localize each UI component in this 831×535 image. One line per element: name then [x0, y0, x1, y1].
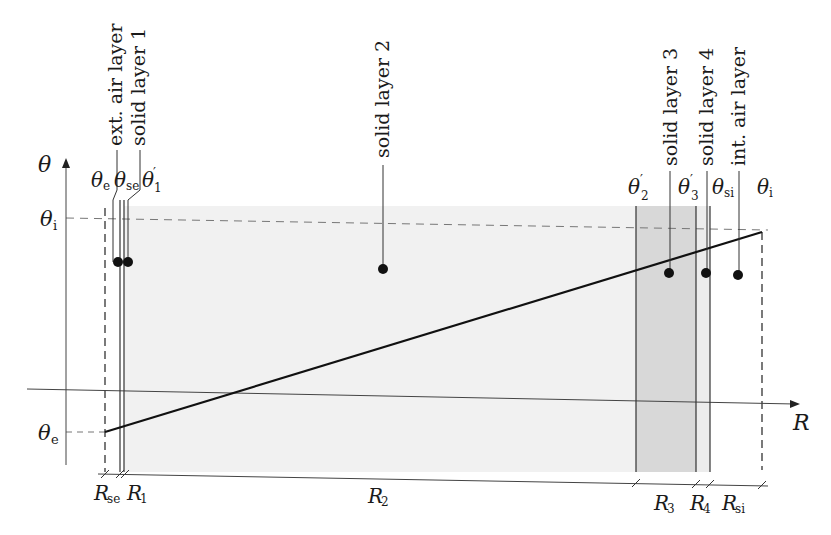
temp-label-theta-2-prime: θ ′ 2: [628, 172, 649, 203]
svg-text:θ: θ: [40, 207, 53, 231]
svg-text:si: si: [735, 502, 745, 516]
svg-text:θ: θ: [91, 168, 103, 192]
svg-text:i: i: [53, 218, 57, 233]
resistance-label-r1: R 1: [126, 481, 148, 506]
svg-text:2: 2: [381, 495, 389, 509]
svg-text:i: i: [769, 186, 773, 200]
label-solid-layer-4: solid layer 4: [695, 48, 717, 166]
svg-text:se: se: [107, 492, 120, 506]
temp-label-theta-1-prime: θ ′ 1: [142, 165, 162, 195]
svg-text:θ: θ: [712, 175, 724, 199]
tick-theta-i: θ i: [40, 207, 57, 233]
dimension-ticks: [101, 470, 766, 489]
svg-text:θ: θ: [757, 175, 769, 199]
dot-solid-4: [701, 268, 711, 278]
resistance-label-r2: R 2: [367, 484, 389, 509]
svg-text:1: 1: [140, 492, 148, 506]
x-axis-label: R: [792, 410, 810, 435]
svg-text:θ: θ: [628, 175, 640, 199]
resistance-label-rse: R se: [93, 481, 120, 506]
dot-ext-air: [113, 257, 123, 267]
svg-text:′: ′: [153, 165, 156, 180]
solid-layer-2-region: [124, 206, 636, 472]
resistance-dimension-line: [98, 474, 768, 486]
dot-solid-2: [378, 264, 388, 274]
temp-label-theta-i: θ i: [757, 175, 773, 200]
svg-text:1: 1: [154, 181, 162, 195]
label-solid-layer-1: solid layer 1: [127, 28, 149, 146]
solid-layer-3-region: [636, 206, 696, 472]
svg-text:se: se: [126, 179, 139, 193]
y-axis-arrow: [62, 158, 70, 168]
svg-text:θ: θ: [38, 421, 51, 445]
solid-layer-4-region: [696, 206, 710, 472]
temp-label-theta-3-prime: θ ′ 3: [678, 172, 699, 203]
temp-label-theta-se: θ se: [114, 168, 139, 193]
resistance-label-r4: R 4: [689, 491, 711, 516]
label-ext-air-layer: ext. air layer: [104, 22, 126, 146]
svg-text:θ: θ: [114, 168, 126, 192]
resistance-label-rsi: R si: [721, 491, 745, 516]
x-axis-arrow: [790, 400, 800, 408]
dot-solid-3: [664, 268, 674, 278]
dot-int-air: [733, 270, 743, 280]
svg-text:′: ′: [690, 172, 693, 187]
leader-ext-air: [113, 150, 117, 262]
tick-theta-e: θ e: [38, 421, 59, 447]
svg-text:e: e: [103, 179, 110, 193]
label-int-air-layer: int. air layer: [727, 46, 749, 166]
temp-label-theta-si: θ si: [712, 175, 734, 200]
svg-text:si: si: [724, 186, 734, 200]
thermal-layer-diagram: ext. air layer solid layer 1 solid layer…: [0, 0, 831, 535]
svg-text:e: e: [51, 432, 59, 447]
svg-text:3: 3: [667, 502, 675, 516]
svg-text:3: 3: [691, 189, 699, 203]
svg-text:θ: θ: [678, 175, 690, 199]
svg-text:′: ′: [640, 172, 643, 187]
dot-solid-1: [123, 257, 133, 267]
temp-label-theta-e: θ e: [91, 168, 110, 193]
resistance-label-r3: R 3: [653, 491, 675, 516]
label-solid-layer-3: solid layer 3: [659, 48, 681, 166]
label-solid-layer-2: solid layer 2: [371, 40, 393, 158]
svg-text:4: 4: [703, 502, 711, 516]
y-axis-label: θ: [38, 152, 51, 177]
svg-text:2: 2: [641, 189, 649, 203]
